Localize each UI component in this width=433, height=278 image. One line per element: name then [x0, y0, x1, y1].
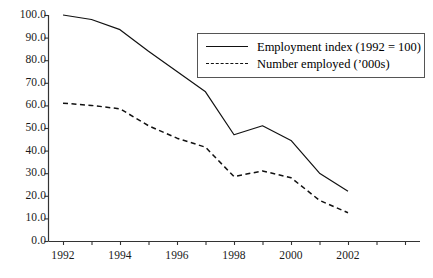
legend-label-number-employed: Number employed (’000s) — [257, 57, 390, 71]
legend-line-sample-solid — [204, 41, 250, 53]
x-tick-label: 1996 — [147, 249, 207, 261]
x-tick-label: 1992 — [33, 249, 93, 261]
legend-line-sample-dashed — [204, 58, 250, 70]
x-tick-label: 1998 — [204, 249, 264, 261]
chart-legend: Employment index (1992 = 100) Number emp… — [197, 33, 425, 78]
legend-label-employment-index: Employment index (1992 = 100) — [257, 40, 421, 54]
legend-entry-number-employed: Number employed (’000s) — [204, 55, 418, 72]
legend-entry-employment-index: Employment index (1992 = 100) — [204, 38, 418, 55]
x-tick-label: 2000 — [261, 249, 321, 261]
x-tick-label: 2002 — [318, 249, 378, 261]
line-chart: 0.010.020.030.040.050.060.070.080.090.01… — [0, 0, 433, 278]
x-tick-label: 1994 — [90, 249, 150, 261]
